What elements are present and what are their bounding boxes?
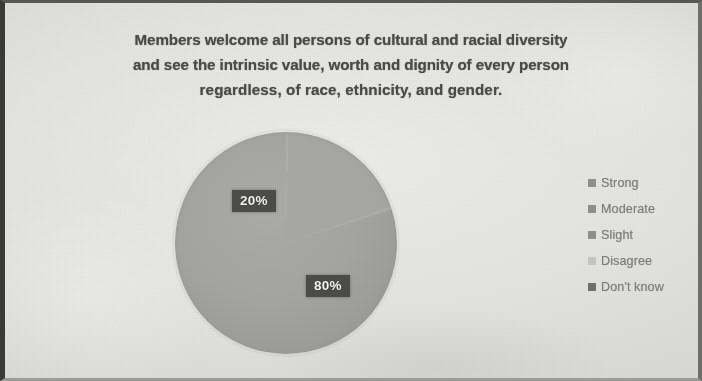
legend-item-disagree[interactable]: Disagree — [588, 248, 664, 274]
legend-swatch-icon-slight — [588, 231, 596, 239]
legend-label-disagree: Disagree — [601, 254, 652, 268]
legend-label-dont-know: Don't know — [601, 280, 664, 294]
legend-item-slight[interactable]: Slight — [588, 222, 664, 248]
legend-label-slight: Slight — [601, 228, 633, 242]
pie-circle — [175, 132, 397, 354]
chart-title-line-3: regardless, of race, ethnicity, and gend… — [46, 77, 656, 102]
pie-chart — [175, 132, 397, 354]
legend-swatch-icon-strong — [588, 179, 596, 187]
chart-title: Members welcome all persons of cultural … — [46, 27, 656, 102]
chart-legend: Strong Moderate Slight Disagree Don't kn… — [588, 170, 664, 300]
pie-data-label-80: 80% — [306, 275, 350, 297]
pie-edge-softening — [175, 132, 397, 354]
legend-item-moderate[interactable]: Moderate — [588, 196, 664, 222]
legend-label-strong: Strong — [601, 176, 639, 190]
legend-swatch-icon-dont-know — [588, 283, 596, 291]
legend-item-dont-know[interactable]: Don't know — [588, 274, 664, 300]
chart-title-line-1: Members welcome all persons of cultural … — [46, 27, 656, 52]
legend-swatch-icon-moderate — [588, 205, 596, 213]
scanned-chart-figure: Members welcome all persons of cultural … — [0, 0, 702, 381]
legend-swatch-icon-disagree — [588, 257, 596, 265]
legend-label-moderate: Moderate — [601, 202, 655, 216]
pie-data-label-20: 20% — [232, 190, 276, 212]
chart-title-line-2: and see the intrinsic value, worth and d… — [46, 52, 656, 77]
legend-item-strong[interactable]: Strong — [588, 170, 664, 196]
